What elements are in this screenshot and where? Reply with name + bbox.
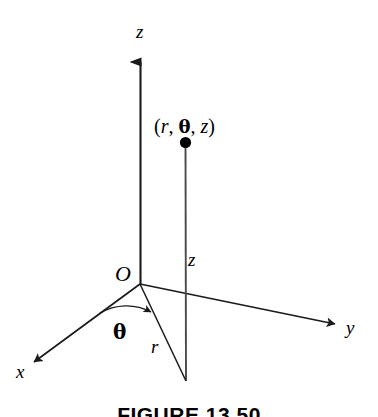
z-axis-label: z <box>136 22 143 41</box>
radius-segment <box>140 284 186 381</box>
point-marker <box>180 137 191 148</box>
point-coordinates-label: (r, θ, z) <box>154 116 215 136</box>
radius-label: r <box>151 337 158 356</box>
theta-label: θ <box>113 322 126 342</box>
coord-theta: θ <box>178 116 190 137</box>
height-label: z <box>188 250 195 269</box>
paren-close: ) <box>208 115 215 137</box>
coord-sep-1: , <box>168 115 178 137</box>
figure-caption: FIGURE 13.50 <box>0 403 378 417</box>
origin-label: O <box>115 263 131 285</box>
y-axis-line <box>140 284 335 324</box>
paren-open: ( <box>154 115 161 137</box>
theta-arc <box>100 306 152 314</box>
y-axis-label: y <box>346 318 354 337</box>
coord-sep-2: , <box>190 115 200 137</box>
height-segment <box>186 142 187 381</box>
x-axis-label: x <box>16 362 24 381</box>
figure-container: z (r, θ, z) z O θ r x y FIGURE 13.50 <box>0 0 378 417</box>
cylindrical-coordinates-diagram <box>0 0 378 417</box>
